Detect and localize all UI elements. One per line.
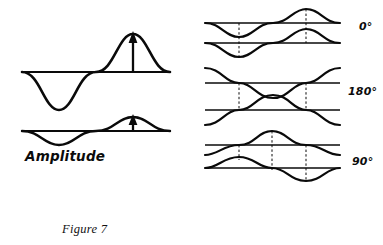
figure-sheet: Amplitude Figure 7 [0,0,383,245]
figure-7-diagram [0,0,192,210]
figure-8-diagram [192,0,383,215]
phase-label-0deg: 0° [359,20,373,33]
figure-7: Amplitude Figure 7 [0,0,192,245]
amplitude-arrow-large-head [129,31,138,43]
panel-90deg [205,131,340,182]
small-amplitude-wave-group [22,114,170,145]
panel-180deg [205,68,340,125]
panel-0deg [205,9,340,57]
phase-label-180deg: 180° [348,85,377,98]
large-amplitude-wave-group [22,31,170,110]
phase-label-90deg: 90° [352,155,373,168]
amplitude-label: Amplitude [25,148,105,164]
amplitude-arrow-large [129,31,138,71]
amplitude-arrow-small-head [129,114,138,125]
figure-7-caption: Figure 7 [62,222,107,237]
figure-8: Phase Difference Figure 8 [192,0,383,245]
